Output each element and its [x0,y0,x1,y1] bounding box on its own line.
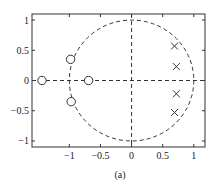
pole-zero-plot: −1−0.500.5110.50−0.5−1 (a) [0,0,214,190]
pole-marker [173,90,180,97]
x-tick-label: 0 [129,150,134,161]
pole-marker [173,63,180,70]
zero-marker [66,55,74,63]
x-tick-label: 0.5 [156,150,169,161]
x-tick-label: −0.5 [91,150,109,161]
pole-marker [171,109,178,116]
x-tick-label: −1 [64,150,75,161]
x-tick-label: 1 [191,150,196,161]
figure-caption: (a) [114,169,125,181]
y-tick-label: −1 [18,135,29,146]
y-tick-label: −0.5 [11,105,29,116]
zero-marker [67,97,75,105]
data-markers [38,43,180,117]
pole-marker [171,43,178,50]
y-tick-label: 1 [24,15,29,26]
zero-marker [84,76,92,84]
zero-marker [38,76,46,84]
y-tick-label: 0.5 [17,45,30,56]
axis-ticks: −1−0.500.5110.50−0.5−1 [11,14,205,161]
guide-lines [32,14,205,147]
y-tick-label: 0 [24,75,29,86]
pole-zero-figure: −1−0.500.5110.50−0.5−1 (a) [0,0,214,190]
